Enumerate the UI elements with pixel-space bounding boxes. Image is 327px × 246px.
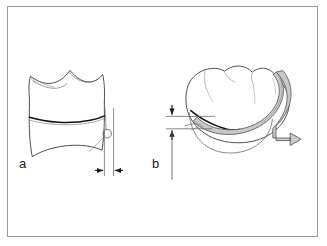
figure-root: a b (0, 0, 327, 246)
panel-label-b: b (152, 157, 159, 170)
panel-a-tooth (29, 70, 112, 156)
tooth-a-crown-outline (29, 70, 105, 156)
panel-b-dimension (166, 105, 215, 180)
figure-artwork (0, 0, 327, 246)
panel-label-a: a (19, 157, 26, 170)
panel-b-tooth (185, 66, 302, 153)
